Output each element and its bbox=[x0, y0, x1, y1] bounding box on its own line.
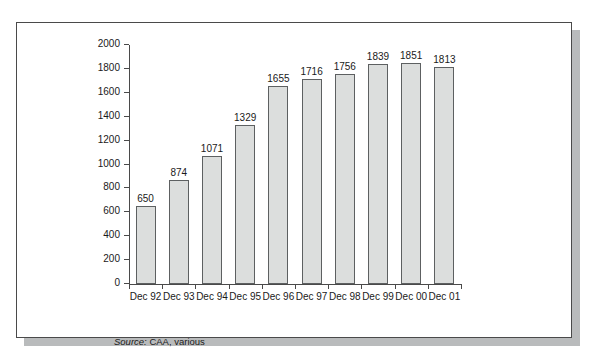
y-axis-tick-label: 400 bbox=[103, 229, 120, 240]
x-axis-label: Dec 97 bbox=[295, 291, 328, 303]
bar-value-label: 1813 bbox=[428, 54, 461, 65]
bar-value-label: 1329 bbox=[229, 112, 262, 123]
x-axis-tick-mark bbox=[295, 284, 296, 289]
y-axis-tick-label: 1000 bbox=[98, 158, 120, 169]
x-axis-label: Dec 96 bbox=[262, 291, 295, 303]
y-axis-tick-mark bbox=[124, 164, 129, 165]
x-axis-tick-mark bbox=[461, 284, 462, 289]
x-axis-label: Dec 95 bbox=[229, 291, 262, 303]
y-axis-tick-label: 2000 bbox=[98, 38, 120, 49]
x-axis-tick-mark bbox=[262, 284, 263, 289]
y-axis-tick-mark bbox=[124, 92, 129, 93]
x-axis-label: Dec 98 bbox=[328, 291, 361, 303]
source-label: Source: bbox=[114, 336, 147, 347]
bar-value-label: 1851 bbox=[395, 50, 428, 61]
x-axis-label: Dec 94 bbox=[195, 291, 228, 303]
x-axis-label: Dec 93 bbox=[162, 291, 195, 303]
bar-value-label: 1716 bbox=[295, 66, 328, 77]
y-axis-tick-mark bbox=[124, 68, 129, 69]
x-axis-tick-mark bbox=[428, 284, 429, 289]
x-axis-tick-mark bbox=[328, 284, 329, 289]
bar-value-label: 1655 bbox=[262, 73, 295, 84]
bar bbox=[268, 86, 288, 284]
bar bbox=[434, 67, 454, 284]
bar bbox=[368, 64, 388, 284]
bar bbox=[401, 63, 421, 284]
bar-value-label: 1839 bbox=[361, 51, 394, 62]
x-axis-label: Dec 01 bbox=[428, 291, 461, 303]
y-axis-tick-label: 200 bbox=[103, 253, 120, 264]
bar-value-label: 1071 bbox=[195, 143, 228, 154]
bar bbox=[235, 125, 255, 284]
y-axis-tick-mark bbox=[124, 44, 129, 45]
y-axis-tick-mark bbox=[124, 187, 129, 188]
x-axis-tick-mark bbox=[229, 284, 230, 289]
x-axis-label: Dec 99 bbox=[361, 291, 394, 303]
bar-value-label: 1756 bbox=[328, 61, 361, 72]
x-axis-label: Dec 00 bbox=[395, 291, 428, 303]
y-axis-tick-mark bbox=[124, 211, 129, 212]
y-axis-tick-label: 1400 bbox=[98, 110, 120, 121]
y-axis-tick-label: 600 bbox=[103, 205, 120, 216]
figure-frame: 0200400600800100012001400160018002000 De… bbox=[16, 22, 572, 338]
bar bbox=[335, 74, 355, 284]
y-axis-tick-label: 0 bbox=[114, 277, 120, 288]
x-axis-tick-mark bbox=[129, 284, 130, 289]
x-axis-tick-mark bbox=[395, 284, 396, 289]
y-axis-tick-label: 1200 bbox=[98, 134, 120, 145]
x-axis-tick-mark bbox=[162, 284, 163, 289]
bar bbox=[302, 79, 322, 284]
bar-value-label: 650 bbox=[129, 193, 162, 204]
bar bbox=[202, 156, 222, 284]
y-axis-tick-mark bbox=[124, 259, 129, 260]
y-axis-tick-mark bbox=[124, 235, 129, 236]
bar bbox=[169, 180, 189, 284]
y-axis-tick-mark bbox=[124, 116, 129, 117]
y-axis-tick-label: 1800 bbox=[98, 62, 120, 73]
y-axis-tick-mark bbox=[124, 140, 129, 141]
y-axis-tick-label: 800 bbox=[103, 181, 120, 192]
x-axis-label: Dec 92 bbox=[129, 291, 162, 303]
bar-value-label: 874 bbox=[162, 167, 195, 178]
y-axis-line bbox=[129, 45, 130, 284]
x-axis-tick-mark bbox=[195, 284, 196, 289]
source-value: CAA, various bbox=[147, 336, 205, 347]
y-axis-tick-label: 1600 bbox=[98, 86, 120, 97]
source-note: Source: CAA, various bbox=[114, 336, 205, 347]
x-axis-tick-mark bbox=[361, 284, 362, 289]
bar bbox=[136, 206, 156, 284]
